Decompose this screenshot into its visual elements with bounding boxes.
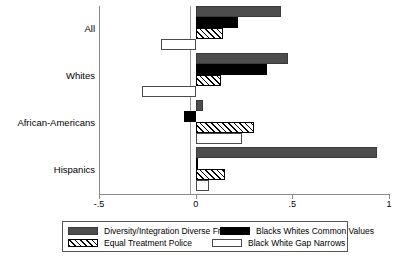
x-axis-tick-label: 0 (193, 199, 198, 209)
legend-swatch-icon (212, 239, 242, 247)
legend-swatch-icon (220, 227, 250, 235)
legend-label: Blacks Whites Common Values (256, 226, 374, 236)
legend-entry-equal-treatment: Equal Treatment Police (68, 238, 212, 248)
bar (196, 75, 221, 86)
legend-row: Equal Treatment Police Black White Gap N… (68, 237, 342, 249)
y-axis-category-label: African-Americans (17, 117, 95, 128)
bar (196, 180, 210, 191)
legend-swatch-icon (68, 227, 98, 235)
bar (196, 28, 223, 39)
x-axis-tick-label: .5 (289, 199, 297, 209)
bar (142, 86, 196, 97)
bar (196, 64, 268, 75)
bar (196, 122, 254, 133)
legend-label: Equal Treatment Police (104, 238, 192, 248)
chart-legend: Diversity/Integration Diverse Friends Bl… (62, 221, 348, 252)
zero-reference-line (190, 6, 191, 194)
legend-label: Black White Gap Narrows (248, 238, 345, 248)
y-axis-category-label: All (84, 23, 95, 34)
bar (196, 6, 281, 17)
x-axis-line (99, 194, 389, 195)
bar (161, 39, 196, 50)
legend-entry-common-values: Blacks Whites Common Values (220, 226, 350, 236)
y-axis-spine (99, 6, 100, 194)
bar (196, 147, 378, 158)
bar (196, 100, 204, 111)
bar (196, 169, 225, 180)
legend-swatch-icon (68, 239, 98, 247)
chart-figure: AllWhitesAfrican-AmericansHispanics -.50… (0, 0, 410, 258)
legend-entry-diversity: Diversity/Integration Diverse Friends (68, 226, 220, 236)
legend-entry-gap-narrows: Black White Gap Narrows (212, 238, 342, 248)
bar (196, 133, 242, 144)
bar (184, 111, 196, 122)
x-axis-tick-label: -.5 (94, 199, 105, 209)
x-axis-tick-label: 1 (386, 199, 391, 209)
y-axis-category-label: Whites (66, 70, 95, 81)
bar (196, 17, 239, 28)
bar (196, 53, 289, 64)
bar (196, 158, 198, 169)
y-axis-category-label: Hispanics (54, 164, 95, 175)
legend-row: Diversity/Integration Diverse Friends Bl… (68, 225, 342, 237)
